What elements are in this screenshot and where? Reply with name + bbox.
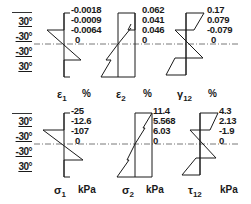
- eps2-values: 0.0620.0410.0460: [142, 5, 164, 45]
- sig1-unit: kPa: [78, 184, 96, 195]
- sig2-values: 11.45.5686.030: [153, 106, 175, 146]
- gam12-unit: %: [208, 88, 217, 99]
- sig1-label: σ1: [54, 184, 66, 199]
- eps1-values: -0.0018-0.0009-0.00640: [71, 5, 101, 45]
- gam12-values: 0.170.079-0.0790: [207, 5, 232, 45]
- tau12-unit: kPa: [220, 184, 238, 195]
- eps2-label: ε2: [116, 88, 126, 103]
- sig2-unit: kPa: [146, 184, 164, 195]
- tau12-label: τ12: [188, 184, 202, 199]
- eps1-label: ε1: [57, 88, 67, 103]
- tau12-values: 4.32.13-1.90: [219, 106, 236, 146]
- eps1-unit: %: [82, 88, 91, 99]
- eps2-unit: %: [143, 88, 152, 99]
- gam12-label: γ12: [177, 88, 192, 103]
- sig2-label: σ2: [122, 184, 134, 199]
- sig1-values: -25-12.6-1070: [71, 106, 91, 146]
